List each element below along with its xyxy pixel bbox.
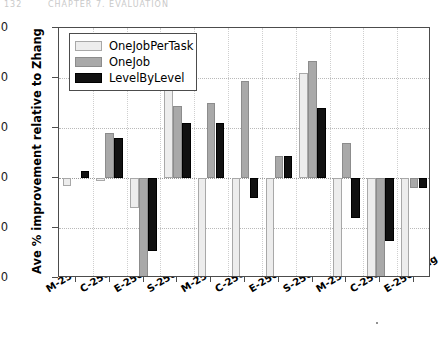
bar: [401, 178, 410, 277]
bar: [410, 178, 419, 188]
bar: [299, 73, 308, 178]
bar: [317, 108, 326, 178]
bar-group: [194, 28, 228, 276]
legend-item: OneJobPerTask: [75, 38, 191, 54]
page-number: 132: [4, 0, 22, 9]
y-tick-label: 20: [0, 70, 8, 84]
legend-item: LevelByLevel: [75, 70, 191, 86]
bar: [419, 178, 428, 188]
bar: [216, 123, 225, 178]
bar: [148, 178, 157, 251]
bar: [308, 61, 317, 179]
bar: [275, 156, 284, 179]
bar: [333, 178, 342, 277]
bar: [351, 178, 360, 218]
bar: [139, 178, 148, 277]
bar: [130, 178, 139, 208]
bar: [367, 178, 376, 277]
bar: [376, 178, 385, 277]
bar-group: [228, 28, 262, 276]
bar: [182, 123, 191, 178]
y-tick-label: 30: [0, 20, 8, 34]
legend-label: LevelByLevel: [109, 71, 184, 85]
legend-swatch-icon: [75, 57, 102, 67]
bar-group: [363, 28, 397, 276]
bar-group: [330, 28, 364, 276]
legend-label: OneJobPerTask: [109, 39, 193, 53]
y-tick-label: -10: [0, 220, 8, 234]
chart-legend: OneJobPerTaskOneJobLevelByLevel: [69, 33, 197, 91]
legend-item: OneJob: [75, 54, 191, 70]
legend-label: OneJob: [109, 55, 150, 69]
bar: [250, 178, 259, 198]
bar: [207, 103, 216, 178]
page-header-artifact: 132 CHAPTER 7. EVALUATION: [0, 0, 445, 12]
bar: [232, 178, 241, 277]
bar: [63, 178, 72, 186]
bar: [241, 81, 250, 179]
bar: [198, 178, 207, 277]
y-tick-label: 0: [0, 170, 8, 184]
y-tick-label: 10: [0, 120, 8, 134]
bar-group: [296, 28, 330, 276]
bar: [342, 143, 351, 178]
bar: [173, 106, 182, 179]
legend-swatch-icon: [75, 73, 102, 83]
figure-container: 132 CHAPTER 7. EVALUATION Ave % improvem…: [0, 0, 445, 349]
page-speck: [376, 322, 378, 324]
bar: [385, 178, 394, 241]
bar: [96, 178, 105, 181]
legend-swatch-icon: [75, 41, 102, 51]
chapter-header: CHAPTER 7. EVALUATION: [48, 0, 169, 9]
bar: [114, 138, 123, 178]
y-axis-label: Ave % improvement relative to Zhang: [30, 44, 44, 274]
bar: [284, 156, 293, 179]
bar: [105, 133, 114, 178]
bar-group: [262, 28, 296, 276]
bar-group: [397, 28, 430, 276]
bar: [266, 178, 275, 277]
y-tick-label: -20: [0, 270, 8, 284]
bar: [81, 171, 90, 179]
